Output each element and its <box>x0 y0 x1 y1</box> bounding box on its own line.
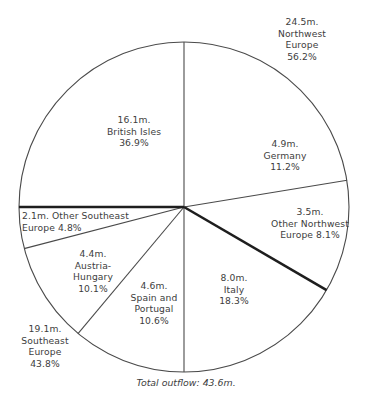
pie-chart: 24.5m. Northwest Europe 56.2% 19.1m. Sou… <box>0 0 372 408</box>
slice-label-italy: 8.0m. Italy 18.3% <box>194 272 274 307</box>
slice-label-austria-hungary: 4.4m. Austria- Hungary 10.1% <box>57 248 129 294</box>
slice-label-other-northwest-europe: 3.5m. Other Northwest Europe 8.1% <box>255 206 365 241</box>
group-label-southeast-europe: 19.1m. Southeast Europe 43.8% <box>2 323 88 369</box>
slice-label-british-isles: 16.1m. British Isles 36.9% <box>79 114 189 149</box>
group-label-northwest-europe: 24.5m. Northwest Europe 56.2% <box>247 16 357 62</box>
slice-label-other-southeast-europe: 2.1m. Other Southeast Europe 4.8% <box>22 210 172 233</box>
slice-label-germany: 4.9m. Germany 11.2% <box>243 138 327 173</box>
chart-caption: Total outflow: 43.6m. <box>0 377 372 388</box>
